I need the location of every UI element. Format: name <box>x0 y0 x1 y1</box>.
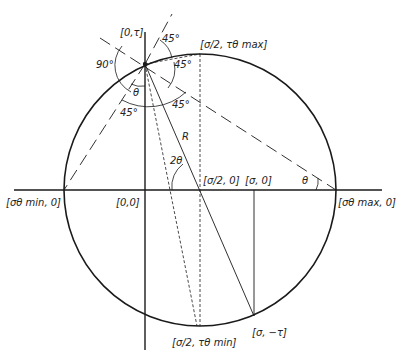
mohr-circle-diagram: [0,τ] [σ/2, τθ max] 90° 45° 45° θ 45° 45… <box>0 0 396 359</box>
label-45-left: 45° <box>120 107 138 118</box>
label-45-right-lower: 45° <box>172 99 190 110</box>
label-right: [σθ max, 0] <box>338 197 396 208</box>
label-origin: [0,0] <box>116 197 140 208</box>
label-top: [σ/2, τθ max] <box>200 39 267 50</box>
label-R: R <box>182 131 189 142</box>
label-45-right-upper: 45° <box>174 59 192 70</box>
point-zero-tau <box>143 62 147 66</box>
arc-2theta <box>172 164 183 190</box>
label-center: [σ/2, 0] <box>203 175 240 186</box>
label-bottom: [σ/2, τθ min] <box>172 337 237 348</box>
label-zero-tau: [0,τ] <box>120 27 143 38</box>
dashed-to-left <box>64 64 145 190</box>
label-2theta: 2θ <box>170 155 182 166</box>
label-theta-right: θ <box>302 175 308 186</box>
arc-theta-right <box>316 178 318 190</box>
label-left: [σθ min, 0] <box>6 197 61 208</box>
label-sigma-neg-tau: [σ, −τ] <box>252 327 287 338</box>
label-theta-top: θ <box>133 87 139 98</box>
label-90: 90° <box>96 59 114 70</box>
label-45-top: 45° <box>162 33 180 44</box>
label-sigma-zero: [σ, 0] <box>245 175 272 186</box>
